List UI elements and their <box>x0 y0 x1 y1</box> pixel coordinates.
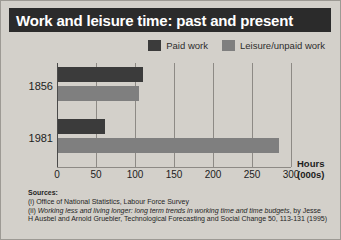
x-axis-title: Hours (000s) <box>297 159 324 180</box>
x-axis-tick-200: 200 <box>205 169 222 180</box>
source-line-2-suffix: , by Jesse <box>289 207 321 214</box>
sources-heading: Sources: <box>28 189 328 198</box>
legend-swatch-paid-work <box>148 40 161 51</box>
x-axis-title-line1: Hours <box>297 159 324 170</box>
x-axis-tick-150: 150 <box>166 169 183 180</box>
source-line-3: H Ausbel and Arnold Gruebler, Technologi… <box>28 215 328 224</box>
x-axis-tick-0: 0 <box>54 169 60 180</box>
legend-item-leisure-unpaid-work: Leisure/unpaid work <box>222 40 325 51</box>
x-axis-title-line2: (000s) <box>297 170 324 181</box>
legend-item-paid-work: Paid work <box>148 40 208 51</box>
sources-note: Sources: (i) Office of National Statisti… <box>28 189 328 224</box>
legend-label-leisure-unpaid-work: Leisure/unpaid work <box>240 40 325 51</box>
x-axis-tick-50: 50 <box>90 169 101 180</box>
bars-container: 050100150200250300 <box>57 63 291 167</box>
gridline <box>291 63 292 167</box>
chart-figure: Work and leisure time: past and present … <box>0 0 341 240</box>
chart-legend: Paid work Leisure/unpaid work <box>9 37 331 53</box>
bar-1856-paid-work <box>58 67 143 82</box>
y-axis-tick-1981: 1981 <box>29 132 53 144</box>
chart-title-bar: Work and leisure time: past and present <box>9 8 331 32</box>
plot-area: 1856 1981 050100150200250300 <box>1 57 341 177</box>
legend-label-paid-work: Paid work <box>166 40 208 51</box>
x-axis-tick-250: 250 <box>244 169 261 180</box>
source-line-2: (ii) Working less and living longer: lon… <box>28 207 328 216</box>
bar-1981-paid-work <box>58 119 105 134</box>
source-line-1: (i) Office of National Statistics, Labou… <box>28 198 328 207</box>
y-axis-labels: 1856 1981 <box>1 63 53 167</box>
source-line-2-title: Working less and living longer: long ter… <box>38 207 290 214</box>
x-axis-tick-100: 100 <box>127 169 144 180</box>
bar-1981-leisure-unpaid-work <box>58 138 279 153</box>
legend-swatch-leisure-unpaid-work <box>222 40 235 51</box>
x-axis-line <box>57 167 291 168</box>
source-line-2-prefix: (ii) <box>28 207 38 214</box>
y-axis-tick-1856: 1856 <box>29 80 53 92</box>
bar-1856-leisure-unpaid-work <box>58 86 139 101</box>
page-title: Work and leisure time: past and present <box>9 12 293 29</box>
